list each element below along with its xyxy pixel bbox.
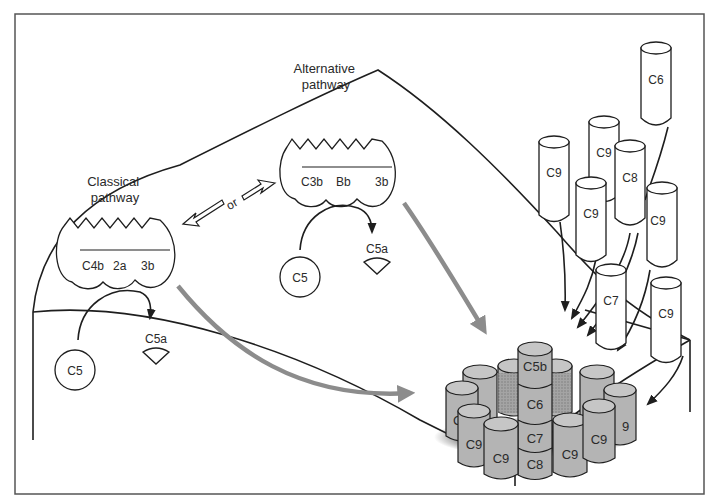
complement-diagram: Classical pathway Alternative pathway C4… <box>0 0 709 498</box>
svg-text:C6: C6 <box>648 73 664 87</box>
c5a-fragment-icon <box>364 258 390 274</box>
c5a-classical-label: C5a <box>145 332 167 346</box>
subunit-3b: 3b <box>141 259 155 273</box>
free-c8: C8 <box>615 140 645 225</box>
free-c9: C9 <box>576 177 606 262</box>
svg-text:C5: C5 <box>292 271 308 285</box>
mac-c6: C6 <box>527 397 544 412</box>
subunit-2a: 2a <box>113 259 127 273</box>
alternative-convertase: C3b Bb 3b <box>280 139 395 207</box>
classical-to-mac-arrow <box>178 286 410 394</box>
or-double-arrow: or <box>183 180 275 226</box>
subunit-c3b: C3b <box>301 175 323 189</box>
membrane-attack-complex: C 9 C5b C6 C7 C8 C9 C9 C9 C9 <box>434 342 636 480</box>
svg-text:C9: C9 <box>591 432 608 447</box>
classical-pathway-label: Classical pathway <box>87 174 143 205</box>
svg-text:C9: C9 <box>493 451 510 466</box>
subunit-bb: Bb <box>336 175 351 189</box>
classical-convertase: C4b 2a 3b <box>56 218 174 289</box>
free-c7: C7 <box>596 264 626 350</box>
free-c6: C6 <box>641 42 671 125</box>
svg-text:C5: C5 <box>67 364 83 378</box>
mac-c7: C7 <box>527 431 544 446</box>
alternative-pathway-label: Alternative pathway <box>293 61 358 92</box>
mac-c8: C8 <box>527 457 544 472</box>
svg-text:9: 9 <box>622 419 629 434</box>
subunit-3b-alt: 3b <box>375 175 389 189</box>
cleavage-arrow-alternative <box>300 205 372 250</box>
svg-text:C9: C9 <box>596 146 612 160</box>
svg-text:C9: C9 <box>658 307 674 321</box>
svg-text:C8: C8 <box>622 171 638 185</box>
subunit-c4b: C4b <box>82 259 104 273</box>
svg-text:C9: C9 <box>546 166 562 180</box>
alternative-to-mac-arrow <box>404 203 484 330</box>
svg-text:C9: C9 <box>650 214 666 228</box>
free-c9: C9 <box>539 136 569 222</box>
svg-text:C9: C9 <box>466 437 483 452</box>
svg-text:C9: C9 <box>583 207 599 221</box>
svg-text:or: or <box>224 195 240 212</box>
free-c9: C9 <box>651 277 681 363</box>
free-c9: C9 <box>647 182 677 267</box>
c5a-alternative-label: C5a <box>366 242 388 256</box>
mac-c5b: C5b <box>523 359 547 374</box>
svg-text:C9: C9 <box>562 447 579 462</box>
svg-text:C7: C7 <box>603 294 619 308</box>
c5a-fragment-icon <box>143 348 169 364</box>
